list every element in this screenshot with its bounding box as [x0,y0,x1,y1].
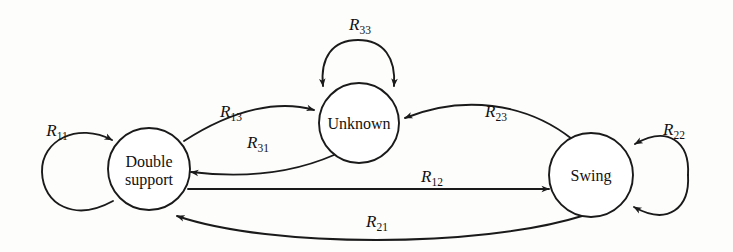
edge-label-r21-base: R [365,212,377,231]
edge-r31[interactable] [191,155,334,175]
edge-label-r33-sub: 33 [359,24,371,36]
edge-label-r33-base: R [348,15,360,34]
state-transition-diagram: Double support Unknown Swing R11 R33 R2 [0,0,733,252]
edge-label-r13-base: R [219,102,231,121]
edge-r22-path-top [635,136,688,175]
edge-label-r12-base: R [420,167,432,186]
edge-label-r22: R22 [662,120,685,141]
edge-r11-path [42,133,113,210]
svg-text:R13: R13 [219,102,242,123]
svg-text:R33: R33 [348,15,371,36]
node-double-support-label-line-2: support [125,171,174,189]
edge-label-r11-sub: 11 [57,130,68,142]
node-swing-label: Swing [571,167,612,185]
svg-text:R23: R23 [484,102,507,123]
edge-r11[interactable] [42,133,113,210]
edge-r31-path [191,155,334,175]
edge-label-r13: R13 [219,102,242,123]
edge-label-r31: R31 [246,133,269,154]
edge-label-r31-base: R [246,133,258,152]
diagram-canvas: Double support Unknown Swing R11 R33 R2 [0,0,733,252]
node-unknown-label: Unknown [327,115,390,132]
node-swing[interactable]: Swing [549,133,633,217]
edge-label-r12: R12 [420,167,443,188]
edge-label-r11-base: R [45,121,57,140]
edge-label-r23-base: R [484,102,496,121]
edge-r33-path-left [323,40,358,86]
edge-label-r23-sub: 23 [495,111,507,123]
edge-r33-path-right [358,40,394,86]
edge-label-r21-sub: 21 [376,221,388,233]
edge-label-r22-base: R [662,120,674,139]
edge-label-r11: R11 [45,121,68,142]
node-double-support[interactable]: Double support [108,128,190,210]
edge-label-r13-sub: 13 [230,111,242,123]
edge-r22[interactable] [634,136,688,215]
edge-label-r22-sub: 22 [673,129,685,141]
svg-text:R22: R22 [662,120,685,141]
edge-label-r21: R21 [365,212,388,233]
svg-text:R12: R12 [420,167,443,188]
node-unknown[interactable]: Unknown [319,83,399,163]
svg-text:R21: R21 [365,212,388,233]
edge-label-r33: R33 [348,15,371,36]
node-double-support-label-line-1: Double [125,153,172,170]
svg-text:R11: R11 [45,121,68,142]
svg-text:R31: R31 [246,133,269,154]
edge-r33[interactable] [323,40,395,86]
edge-r22-path-bottom [634,175,688,215]
edge-label-r31-sub: 31 [257,142,269,154]
edge-label-r12-sub: 12 [431,176,443,188]
edge-label-r23: R23 [484,102,507,123]
